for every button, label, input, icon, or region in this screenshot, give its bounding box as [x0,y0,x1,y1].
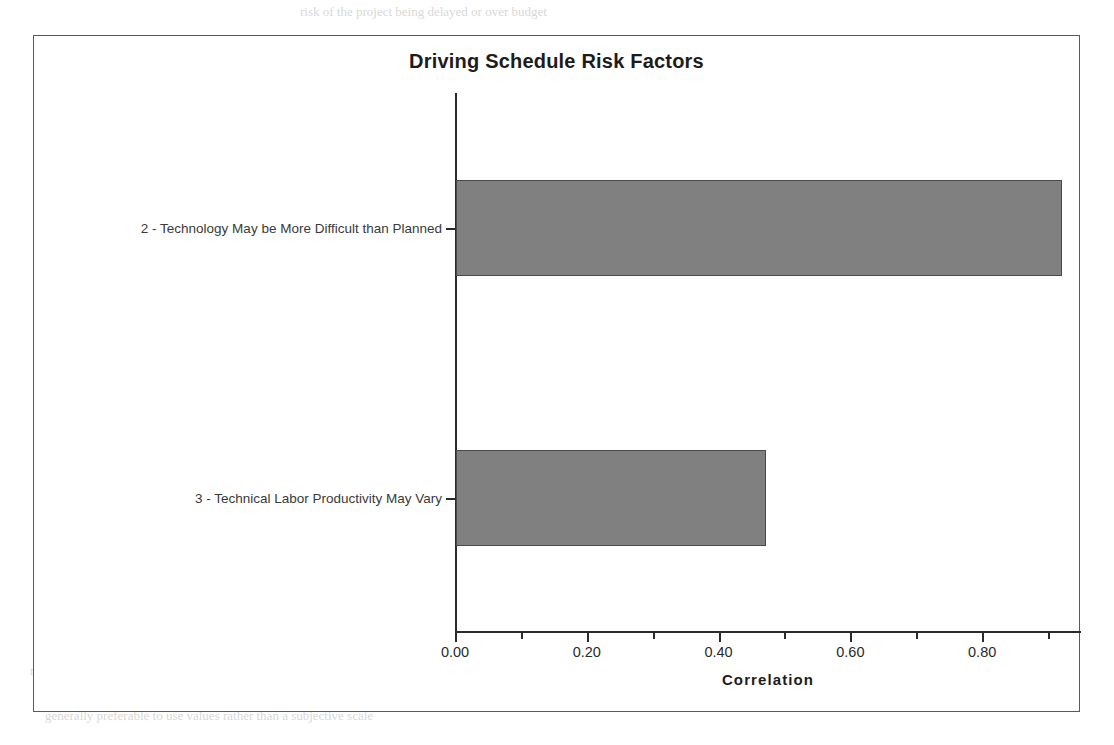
x-tick-label: 0.80 [968,644,996,660]
x-tick-minor [521,633,523,639]
x-tick-major [455,633,457,642]
plot-area: 2 - Technology May be More Difficult tha… [455,93,1081,633]
category-tick [446,228,455,230]
y-axis-line [455,93,457,633]
category-label: 3 - Technical Labor Productivity May Var… [195,491,442,506]
x-tick-minor [916,633,918,639]
x-tick-major [719,633,721,642]
x-tick-major [587,633,589,642]
x-tick-major [982,633,984,642]
x-tick-label: 0.40 [704,644,732,660]
x-tick-minor [1048,633,1050,639]
x-tick-label: 0.00 [441,644,469,660]
chart-frame: Driving Schedule Risk Factors 2 - Techno… [33,35,1080,712]
category-tick [446,498,455,500]
x-axis-title: Correlation [455,671,1081,688]
x-tick-label: 0.20 [573,644,601,660]
bleedthrough-text-line: risk of the project being delayed or ove… [300,4,547,20]
bar [456,450,766,546]
chart-title: Driving Schedule Risk Factors [34,50,1079,73]
x-tick-major [850,633,852,642]
x-axis-line [455,631,1081,633]
bar [456,180,1062,276]
x-tick-minor [653,633,655,639]
x-tick-minor [784,633,786,639]
category-label: 2 - Technology May be More Difficult tha… [141,221,442,236]
x-tick-label: 0.60 [836,644,864,660]
